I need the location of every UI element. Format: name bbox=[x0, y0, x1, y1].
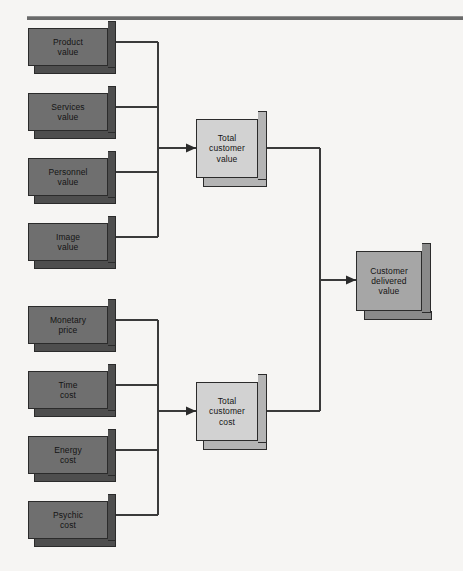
node-label: Productvalue bbox=[53, 37, 83, 57]
node-label: Energycost bbox=[54, 445, 82, 465]
box-bottom-face bbox=[34, 474, 116, 482]
box-front-face: Customerdeliveredvalue bbox=[356, 251, 422, 311]
node-image-value[interactable]: Imagevalue bbox=[28, 223, 108, 261]
box-side-face bbox=[258, 374, 267, 443]
node-label: Personnelvalue bbox=[48, 167, 87, 187]
box-front-face: Monetaryprice bbox=[28, 306, 108, 344]
box-bottom-face bbox=[34, 131, 116, 139]
node-energy-cost[interactable]: Energycost bbox=[28, 436, 108, 474]
box-side-face bbox=[422, 243, 431, 313]
node-services-value[interactable]: Servicesvalue bbox=[28, 93, 108, 131]
box-side-face bbox=[258, 111, 267, 180]
box-bottom-face bbox=[34, 409, 116, 417]
node-psychic-cost[interactable]: Psychiccost bbox=[28, 501, 108, 539]
box-side-face bbox=[108, 151, 116, 198]
box-front-face: Personnelvalue bbox=[28, 158, 108, 196]
box-front-face: Servicesvalue bbox=[28, 93, 108, 131]
box-bottom-face bbox=[34, 261, 116, 269]
box-side-face bbox=[108, 364, 116, 411]
node-label: Customerdeliveredvalue bbox=[370, 266, 408, 296]
box-side-face bbox=[108, 299, 116, 346]
node-time-cost[interactable]: Timecost bbox=[28, 371, 108, 409]
box-front-face: Energycost bbox=[28, 436, 108, 474]
box-side-face bbox=[108, 429, 116, 476]
node-label: Monetaryprice bbox=[50, 315, 86, 335]
node-monetary-price[interactable]: Monetaryprice bbox=[28, 306, 108, 344]
box-front-face: Productvalue bbox=[28, 28, 108, 66]
node-total-customer-cost[interactable]: Totalcustomercost bbox=[196, 382, 258, 441]
node-label: Imagevalue bbox=[56, 232, 80, 252]
node-customer-delivered-value[interactable]: Customerdeliveredvalue bbox=[356, 251, 422, 311]
box-front-face: Psychiccost bbox=[28, 501, 108, 539]
box-front-face: Totalcustomervalue bbox=[196, 119, 258, 178]
arrowhead-cost bbox=[186, 407, 196, 416]
box-bottom-face bbox=[34, 196, 116, 204]
diagram-canvas: Productvalue Servicesvalue Personnelvalu… bbox=[0, 0, 463, 571]
node-label: Totalcustomercost bbox=[209, 396, 245, 426]
box-front-face: Timecost bbox=[28, 371, 108, 409]
box-bottom-face bbox=[34, 344, 116, 352]
box-bottom-face bbox=[34, 539, 116, 547]
box-side-face bbox=[108, 21, 116, 68]
box-front-face: Totalcustomercost bbox=[196, 382, 258, 441]
box-bottom-face bbox=[34, 66, 116, 74]
node-label: Totalcustomervalue bbox=[209, 133, 245, 163]
node-label: Psychiccost bbox=[53, 510, 83, 530]
arrowhead-result bbox=[346, 276, 356, 285]
node-product-value[interactable]: Productvalue bbox=[28, 28, 108, 66]
box-side-face bbox=[108, 216, 116, 263]
node-label: Timecost bbox=[59, 380, 78, 400]
box-side-face bbox=[108, 86, 116, 133]
node-label: Servicesvalue bbox=[51, 102, 84, 122]
arrowhead-value bbox=[186, 144, 196, 153]
node-personnel-value[interactable]: Personnelvalue bbox=[28, 158, 108, 196]
box-front-face: Imagevalue bbox=[28, 223, 108, 261]
box-side-face bbox=[108, 494, 116, 541]
node-total-customer-value[interactable]: Totalcustomervalue bbox=[196, 119, 258, 178]
